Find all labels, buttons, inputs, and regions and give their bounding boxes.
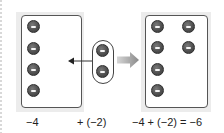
left-dotted-border bbox=[0, 0, 2, 133]
added-value-label: + (−2) bbox=[77, 116, 106, 128]
negative-counter-icon bbox=[151, 84, 164, 97]
left-value-label: −4 bbox=[26, 116, 39, 128]
negative-counter-icon bbox=[27, 84, 40, 97]
negative-counter-icon bbox=[96, 65, 109, 78]
equation-label: −4 + (−2) = −6 bbox=[132, 116, 202, 128]
negative-counter-icon bbox=[151, 20, 164, 33]
negative-counter-icon bbox=[151, 63, 164, 76]
negative-counter-icon bbox=[96, 44, 109, 57]
arrow-left-icon bbox=[68, 56, 94, 66]
negative-counter-icon bbox=[182, 20, 195, 33]
arrow-right-icon bbox=[117, 52, 139, 68]
negative-counter-icon bbox=[182, 41, 195, 54]
negative-counter-icon bbox=[27, 63, 40, 76]
negative-counter-icon bbox=[27, 42, 40, 55]
negative-counter-icon bbox=[27, 20, 40, 33]
negative-counter-icon bbox=[151, 41, 164, 54]
